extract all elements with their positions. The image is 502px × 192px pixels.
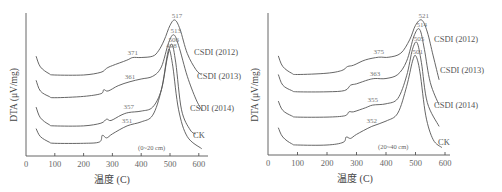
x-tick-label: 0 — [266, 158, 270, 168]
curve-ck — [278, 55, 442, 147]
figure: 0100200300400500600 37151736151335750635… — [0, 0, 502, 192]
series-label: CK — [438, 137, 451, 147]
main-peak-label: 517 — [172, 12, 183, 20]
main-peak-label: 514 — [416, 21, 427, 29]
series-labels: CSDI (2012)CSDI (2013)CSDI (2014)CK — [190, 47, 241, 140]
x-tick-label: 300 — [106, 159, 119, 169]
depth-label: (0~20 cm) — [138, 144, 165, 152]
main-peak-label: 505 — [414, 35, 425, 43]
x-tick-label: 200 — [77, 159, 90, 169]
chart-panel-0-20cm: 0100200300400500600 37151736151335750635… — [9, 12, 241, 186]
chart-panel-20-40cm: 0100200300400500600 37552136351435550535… — [250, 12, 484, 185]
x-tick-label: 100 — [291, 158, 304, 168]
series-label: CSDI (2012) — [434, 34, 478, 44]
curve-ck — [36, 49, 202, 149]
curve-csdi-2014 — [36, 44, 196, 134]
x-ticks: 0100200300400500600 — [266, 152, 452, 168]
shoulder-peak-label: 371 — [128, 49, 139, 57]
main-peak-label: 513 — [170, 27, 181, 35]
series-label: CK — [193, 130, 206, 140]
x-tick-label: 200 — [321, 158, 334, 168]
x-tick-label: 400 — [135, 159, 148, 169]
x-ticks: 0100200300400500600 — [24, 153, 205, 169]
x-tick-label: 300 — [350, 158, 363, 168]
x-tick-label: 0 — [24, 159, 28, 169]
shoulder-peak-label: 363 — [370, 70, 381, 78]
series-labels: CSDI (2012)CSDI (2013)CSDI (2014)CK — [434, 34, 484, 147]
series-label: CSDI (2014) — [190, 103, 234, 113]
x-tick-label: 500 — [164, 159, 177, 169]
y-axis-label: DTA (μV/mg) — [9, 68, 20, 122]
main-peak-label: 498 — [166, 42, 177, 50]
series-label: CSDI (2012) — [194, 47, 238, 57]
x-axis-label: 温度 (C) — [94, 173, 130, 186]
shoulder-peak-label: 357 — [124, 103, 135, 111]
shoulder-peak-label: 375 — [373, 48, 384, 56]
y-axis-label: DTA (μV/mg) — [250, 68, 261, 122]
x-tick-label: 400 — [380, 158, 393, 168]
x-tick-label: 600 — [192, 159, 205, 169]
shoulder-peak-label: 352 — [367, 117, 378, 125]
x-tick-label: 500 — [409, 158, 422, 168]
shoulder-peak-label: 351 — [122, 117, 133, 125]
main-peak-label: 501 — [413, 48, 424, 56]
depth-label: (20~40 cm) — [378, 143, 408, 151]
series-label: CSDI (2013) — [197, 71, 241, 81]
shoulder-peak-label: 361 — [125, 73, 136, 81]
shoulder-peak-label: 355 — [367, 96, 378, 104]
x-tick-label: 600 — [439, 158, 452, 168]
x-axis-label: 温度 (C) — [337, 172, 373, 185]
peak-annotations: 375521363514355505352501 — [367, 12, 430, 125]
x-tick-label: 100 — [48, 159, 61, 169]
series-label: CSDI (2013) — [440, 65, 484, 75]
series-label: CSDI (2014) — [434, 100, 478, 110]
main-peak-label: 521 — [418, 12, 429, 20]
